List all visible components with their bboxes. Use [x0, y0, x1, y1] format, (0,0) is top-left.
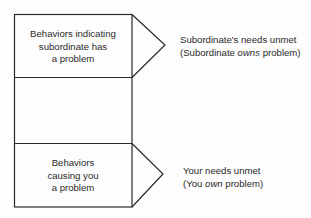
top-box-line-1: Behaviors indicating	[14, 28, 132, 41]
bottom-box-line-1: Behaviors	[14, 157, 132, 170]
top-outcome-line-1: Subordinate's needs unmet	[180, 34, 301, 47]
bottom-outcome-line-2: (You own problem)	[183, 178, 263, 191]
bottom-outcome-label: Your needs unmet (You own problem)	[183, 165, 263, 190]
bottom-box-line-3: a problem	[14, 182, 132, 195]
top-box-line-3: a problem	[14, 53, 132, 66]
bottom-outcome-line-1: Your needs unmet	[183, 165, 263, 178]
bottom-arrow-icon	[132, 144, 163, 208]
bottom-box-line-2: causing you	[14, 170, 132, 183]
top-outcome-suffix: problem)	[260, 47, 301, 58]
top-outcome-prefix: (Subordinate	[180, 47, 238, 58]
bottom-outcome-prefix: (You	[183, 178, 205, 189]
top-outcome-line-2: (Subordinate owns problem)	[180, 47, 301, 60]
top-box-label: Behaviors indicating subordinate has a p…	[14, 28, 132, 66]
top-arrow-icon	[132, 15, 165, 78]
top-box-line-2: subordinate has	[14, 41, 132, 54]
bottom-outcome-suffix: problem)	[223, 178, 264, 189]
top-outcome-label: Subordinate's needs unmet (Subordinate o…	[180, 34, 301, 59]
bottom-outcome-emphasis: own	[205, 178, 223, 189]
bottom-box-label: Behaviors causing you a problem	[14, 157, 132, 195]
top-outcome-emphasis: owns	[238, 47, 260, 58]
